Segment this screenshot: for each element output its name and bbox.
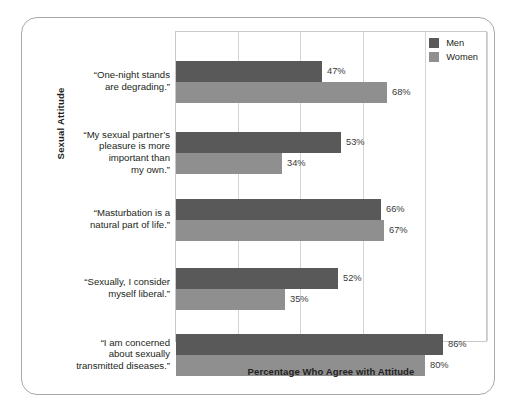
bar-men[interactable] bbox=[176, 199, 381, 220]
category-label-line: “My sexual partner’s bbox=[40, 129, 170, 141]
category-label-line: natural part of life.” bbox=[40, 219, 170, 231]
bar-men[interactable] bbox=[176, 132, 341, 153]
plot-area: 47%68%53%34%66%67%52%35%86%80% MenWomen bbox=[175, 31, 487, 342]
legend-label: Men bbox=[446, 38, 464, 48]
bar-women[interactable] bbox=[176, 82, 387, 103]
bar-value-label: 86% bbox=[448, 334, 467, 355]
chart-legend: MenWomen bbox=[429, 38, 478, 62]
legend-item-men[interactable]: Men bbox=[429, 38, 478, 48]
gridline-100 bbox=[487, 32, 488, 341]
bar-men[interactable] bbox=[176, 334, 443, 355]
bar-value-label: 35% bbox=[290, 289, 309, 310]
category-label-line: important than bbox=[40, 152, 170, 164]
women-swatch-icon bbox=[429, 52, 439, 62]
category-label-line: are degrading.” bbox=[40, 81, 170, 93]
category-label: “Sexually, I considermyself liberal.” bbox=[40, 276, 170, 299]
bar-men[interactable] bbox=[176, 61, 322, 82]
bar-group: 66%67% bbox=[176, 199, 486, 241]
category-label-line: about sexually bbox=[40, 348, 170, 360]
category-label: “My sexual partner’spleasure is moreimpo… bbox=[40, 129, 170, 175]
bar-value-label: 67% bbox=[389, 220, 408, 241]
bar-value-label: 66% bbox=[386, 199, 405, 220]
category-label: “One-night standsare degrading.” bbox=[40, 69, 170, 92]
bar-value-label: 68% bbox=[392, 82, 411, 103]
bar-men[interactable] bbox=[176, 268, 338, 289]
category-label-line: pleasure is more bbox=[40, 140, 170, 152]
category-label-column: “One-night standsare degrading.”“My sexu… bbox=[40, 31, 170, 342]
bar-women[interactable] bbox=[176, 153, 282, 174]
men-swatch-icon bbox=[429, 38, 439, 48]
chart-figure: Sexual Attitude “One-night standsare deg… bbox=[0, 0, 507, 408]
category-label: “I am concernedabout sexuallytransmitted… bbox=[40, 337, 170, 372]
category-label-line: transmitted diseases.” bbox=[40, 360, 170, 372]
bar-women[interactable] bbox=[176, 289, 285, 310]
bar-women[interactable] bbox=[176, 220, 384, 241]
category-label-line: my own.” bbox=[40, 164, 170, 176]
bar-value-label: 47% bbox=[327, 61, 346, 82]
legend-item-women[interactable]: Women bbox=[429, 52, 478, 62]
category-label: “Masturbation is anatural part of life.” bbox=[40, 207, 170, 230]
category-label-line: “Sexually, I consider bbox=[40, 276, 170, 288]
category-label-line: myself liberal.” bbox=[40, 288, 170, 300]
category-label-line: “Masturbation is a bbox=[40, 207, 170, 219]
x-axis-title: Percentage Who Agree with Attitude bbox=[175, 366, 487, 377]
category-label-line: “One-night stands bbox=[40, 69, 170, 81]
bar-value-label: 34% bbox=[287, 153, 306, 174]
bar-group: 47%68% bbox=[176, 61, 486, 103]
category-label-line: “I am concerned bbox=[40, 337, 170, 349]
bar-value-label: 53% bbox=[346, 132, 365, 153]
bar-group: 52%35% bbox=[176, 268, 486, 310]
bar-value-label: 52% bbox=[343, 268, 362, 289]
legend-label: Women bbox=[446, 52, 478, 62]
bar-group: 53%34% bbox=[176, 132, 486, 174]
